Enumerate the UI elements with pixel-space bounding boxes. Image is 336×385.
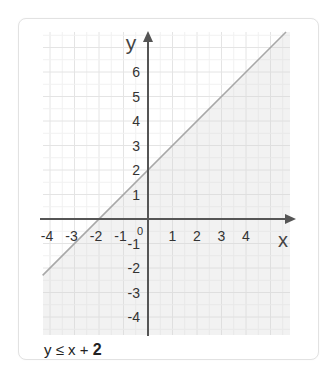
x-tick-label: -1: [114, 228, 127, 244]
y-tick-label: 4: [132, 113, 140, 129]
x-tick-label: 2: [193, 228, 201, 244]
y-tick-label: 1: [132, 187, 140, 203]
x-tick-label: 1: [169, 228, 177, 244]
y-tick-label: 6: [132, 64, 140, 80]
x-axis-arrow-icon: [285, 214, 296, 224]
x-tick-label: 4: [242, 228, 250, 244]
y-tick-label: -3: [128, 285, 141, 301]
inequality-graph: -4-3-2-11234 654321-1-2-3-4 0 x y: [0, 0, 336, 385]
y-tick-label: -4: [128, 309, 141, 325]
x-tick-label: 3: [218, 228, 226, 244]
x-tick-label: -4: [41, 228, 54, 244]
origin-label: 0: [137, 225, 143, 237]
y-axis-label: y: [126, 31, 137, 54]
x-tick-label: -3: [65, 228, 78, 244]
x-tick-label: -2: [90, 228, 103, 244]
x-axis-label: x: [278, 229, 288, 251]
y-tick-label: 2: [132, 162, 140, 178]
caption-lhs: y ≤ x +: [44, 341, 93, 358]
shaded-region: [43, 32, 290, 335]
y-tick-label: 5: [132, 89, 140, 105]
y-tick-label: -1: [128, 236, 141, 252]
caption-constant: 2: [93, 341, 102, 358]
y-tick-label: -2: [128, 260, 141, 276]
y-axis-arrow-icon: [143, 31, 153, 42]
y-tick-label: 3: [132, 138, 140, 154]
inequality-caption: y ≤ x + 2: [44, 341, 102, 359]
